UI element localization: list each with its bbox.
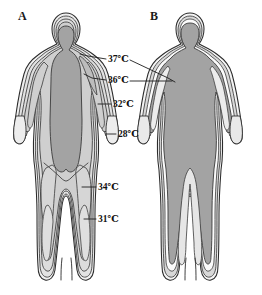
body-b-left-hand [138, 116, 150, 144]
temp-label-37: 37℃ [108, 54, 129, 64]
body-a-left-hand [14, 116, 26, 144]
body-temperature-diagram: A B 37℃ 36℃ 32℃ 28℃ 34℃ 31℃ [0, 0, 262, 295]
thermoregulation-figure: A B 37℃ 36℃ 32℃ 28℃ 34℃ 31℃ [0, 0, 262, 295]
panel-letter-a: A [18, 9, 27, 23]
temp-label-28: 28℃ [118, 129, 139, 139]
body-b-right-hand [230, 116, 242, 144]
temp-label-36: 36℃ [108, 75, 129, 85]
body-a-right-hand [106, 116, 118, 144]
temp-label-34: 34℃ [98, 182, 119, 192]
panel-letter-b: B [150, 9, 158, 23]
temp-label-31: 31℃ [98, 214, 119, 224]
temp-label-32: 32℃ [113, 99, 134, 109]
